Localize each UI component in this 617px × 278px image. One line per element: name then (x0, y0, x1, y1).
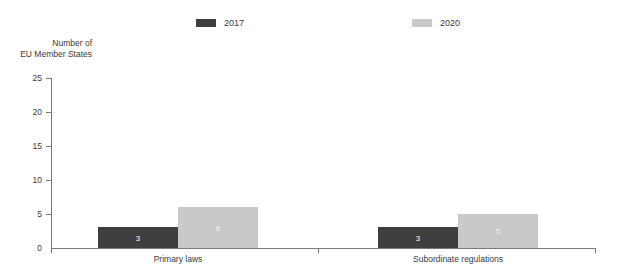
y-tick-label-5: 5 (14, 210, 42, 219)
y-tick-label-15: 15 (14, 142, 42, 151)
y-tick-mark-15 (46, 146, 52, 147)
chart-container: 2017 2020 Number of EU Member States 25 … (0, 0, 617, 278)
bar-subordinate-regulations-2017[interactable]: 3 (378, 227, 458, 248)
y-tick-mark-5 (46, 214, 52, 215)
bar-value-subordinate-regulations-2017: 3 (378, 233, 458, 242)
x-category-label-subordinate-regulations: Subordinate regulations (378, 254, 538, 264)
y-tick-label-20: 20 (14, 108, 42, 117)
y-tick-label-0: 0 (14, 244, 42, 253)
x-tick-mark-end (595, 249, 596, 253)
x-tick-mark-start (51, 249, 52, 253)
chart-legend: 2017 2020 (0, 16, 617, 32)
y-tick-label-25: 25 (14, 74, 42, 83)
x-category-label-primary-laws: Primary laws (98, 254, 258, 264)
bar-primary-laws-2017[interactable]: 3 (98, 227, 178, 248)
bar-value-subordinate-regulations-2020: 5 (458, 227, 538, 236)
bar-subordinate-regulations-2020[interactable]: 5 (458, 214, 538, 248)
legend-swatch-2017 (196, 19, 216, 27)
y-axis-title-line1: Number of (0, 38, 92, 49)
legend-label-2020: 2020 (440, 19, 460, 28)
bar-primary-laws-2020[interactable]: 6 (178, 207, 258, 248)
x-axis-line (51, 248, 596, 249)
legend-item-2020[interactable]: 2020 (412, 16, 460, 30)
y-tick-mark-10 (46, 180, 52, 181)
x-tick-mark-middle (318, 249, 319, 253)
y-tick-label-10: 10 (14, 176, 42, 185)
y-axis-line (51, 78, 52, 248)
legend-label-2017: 2017 (224, 19, 244, 28)
legend-swatch-2020 (412, 19, 432, 27)
y-tick-mark-20 (46, 112, 52, 113)
legend-item-2017[interactable]: 2017 (196, 16, 244, 30)
y-axis-title-line2: EU Member States (0, 49, 92, 60)
bar-value-primary-laws-2017: 3 (98, 233, 178, 242)
y-axis-title: Number of EU Member States (0, 38, 92, 60)
bar-value-primary-laws-2020: 6 (178, 223, 258, 232)
y-tick-mark-25 (46, 78, 52, 79)
